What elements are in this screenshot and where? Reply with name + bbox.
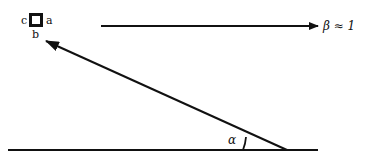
- edge-label-b: b: [32, 28, 39, 41]
- relativistic-square-diagram: c a b β ≈ 1 α: [0, 0, 365, 159]
- incident-ray-arrow: [46, 41, 287, 150]
- angle-arc: [243, 137, 246, 150]
- angle-label: α: [228, 133, 236, 147]
- moving-square: [31, 15, 42, 26]
- edge-label-a: a: [46, 14, 53, 27]
- edge-label-c: c: [21, 14, 27, 27]
- velocity-label: β ≈ 1: [322, 19, 355, 33]
